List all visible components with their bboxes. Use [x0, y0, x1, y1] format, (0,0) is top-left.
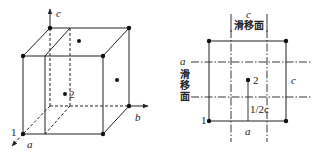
cube-hidden-edges	[23, 28, 129, 134]
bottom-a-label: a	[245, 125, 251, 137]
c-axis-label: c	[56, 7, 61, 19]
top-slip-plane-label: 滑移面	[234, 19, 264, 31]
atom-2-label: 2	[69, 88, 75, 100]
left-a-label: a	[180, 55, 186, 67]
projection-atoms	[207, 39, 288, 123]
projection-atom-1-label: 1	[201, 114, 207, 126]
cube-front-face	[23, 56, 103, 134]
figure-canvas: c b a 1 2 c 滑移面 a 滑 移 面 c 2 1/2	[0, 0, 316, 162]
projection-atom-2-label: 2	[253, 74, 259, 86]
left-slip-plane-char-2: 移	[180, 79, 190, 91]
left-slip-plane-char-1: 滑	[180, 68, 190, 80]
b-axis-label: b	[135, 111, 141, 123]
a-axis-label: a	[27, 138, 33, 150]
cube-slip-plane	[45, 28, 70, 134]
cube-atoms	[21, 26, 131, 136]
top-c-label: c	[246, 8, 251, 20]
left-slip-plane-char-3: 面	[180, 91, 190, 102]
offset-label: 1/2c	[250, 103, 269, 115]
right-c-label: c	[291, 74, 296, 86]
atom-1-label: 1	[11, 126, 17, 138]
